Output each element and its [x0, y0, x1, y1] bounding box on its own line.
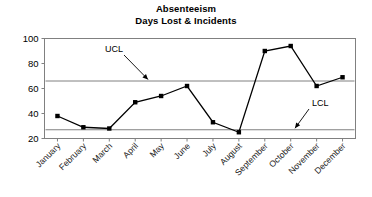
- annotation-label-lcl: LCL: [312, 98, 329, 108]
- x-axis-tick-label: May: [147, 140, 166, 159]
- data-point-marker: [81, 125, 85, 129]
- y-axis-tick-label: 100: [23, 33, 39, 44]
- absenteeism-chart: Absenteeism Days Lost & Incidents 204060…: [0, 0, 372, 197]
- x-axis-tick-label: April: [121, 141, 140, 160]
- x-axis-tick-label: June: [172, 141, 192, 161]
- data-point-marker: [55, 114, 59, 118]
- data-point-marker: [107, 126, 111, 130]
- chart-plot-area: 20406080100UCLLCLJanuaryFebruaryMarchApr…: [0, 0, 372, 197]
- data-point-marker: [159, 94, 163, 98]
- data-point-marker: [314, 84, 318, 88]
- x-axis-tick-label: March: [90, 141, 114, 165]
- data-point-marker: [237, 130, 241, 134]
- x-axis-tick-label: February: [57, 140, 89, 172]
- y-axis-tick-label: 80: [28, 58, 39, 69]
- data-point-marker: [289, 44, 293, 48]
- annotation-label-ucl: UCL: [105, 44, 123, 54]
- data-point-marker: [185, 84, 189, 88]
- data-point-marker: [133, 100, 137, 104]
- data-point-marker: [340, 75, 344, 79]
- x-axis-tick-label: July: [200, 140, 218, 158]
- y-axis-tick-label: 40: [28, 108, 39, 119]
- y-axis-tick-label: 60: [28, 83, 39, 94]
- data-point-marker: [211, 120, 215, 124]
- plot-border: [45, 39, 356, 139]
- y-axis-tick-label: 20: [28, 133, 39, 144]
- data-point-marker: [263, 49, 267, 53]
